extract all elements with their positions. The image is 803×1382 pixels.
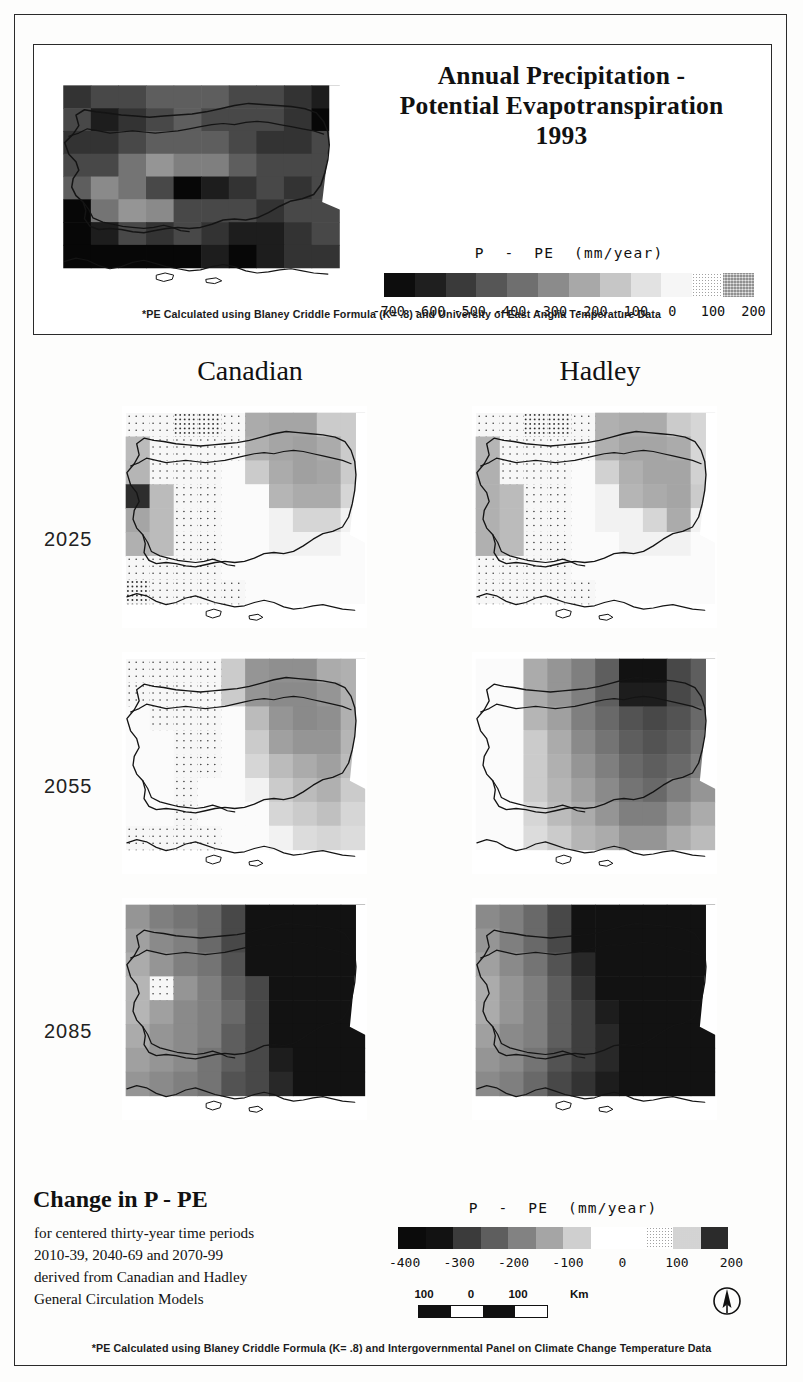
row-label-2085: 2085: [44, 1020, 130, 1043]
figure-page: Annual Precipitation - Potential Evapotr…: [0, 0, 803, 1382]
legend-swatch: [600, 273, 631, 297]
row-label-2055: 2055: [44, 775, 130, 798]
title-line-2: Potential Evapotranspiration: [364, 91, 759, 121]
change-line-2: 2010-39, 2040-69 and 2070-99: [34, 1244, 354, 1266]
legend-tick: 100: [701, 303, 725, 319]
scale-tick: 100: [414, 1288, 433, 1300]
top-legend-bar: [384, 273, 754, 297]
legend-tick: 200: [720, 1255, 743, 1270]
legend-swatch: [415, 273, 446, 297]
scale-bar-labels: 1000100: [418, 1288, 558, 1303]
change-line-3: derived from Canadian and Hadley: [34, 1266, 354, 1288]
legend-swatch: [692, 273, 723, 297]
map-observed-1993: [59, 79, 342, 291]
row-label-2025: 2025: [44, 528, 130, 551]
legend-swatch: [723, 273, 754, 297]
legend-swatch: [446, 273, 477, 297]
legend-swatch: [563, 1227, 591, 1249]
legend-swatch: [673, 1227, 701, 1249]
change-description: for centered thirty-year time periods 20…: [34, 1222, 354, 1310]
map-canvas: [59, 79, 342, 291]
legend-tick: -300: [443, 1255, 474, 1270]
legend-swatch: [398, 1227, 426, 1249]
legend-swatch: [569, 273, 600, 297]
map-canadian-2085: [122, 898, 367, 1120]
map-hadley-2025: [472, 406, 717, 628]
map-canadian-2055: [122, 652, 367, 874]
legend-swatch: [453, 1227, 481, 1249]
figure-title: Annual Precipitation - Potential Evapotr…: [364, 61, 759, 150]
compass-north-icon: [712, 1286, 742, 1316]
legend-tick: -200: [498, 1255, 529, 1270]
scale-tick: 0: [468, 1288, 474, 1300]
title-line-3: 1993: [364, 121, 759, 151]
map-hadley-2055: [472, 652, 717, 874]
bottom-footnote: *PE Calculated using Blaney Criddle Form…: [92, 1342, 712, 1354]
top-legend-caption: P - PE (mm/year): [384, 245, 754, 261]
title-line-1: Annual Precipitation -: [364, 61, 759, 91]
column-header-hadley: Hadley: [470, 355, 730, 387]
legend-swatch: [631, 273, 662, 297]
column-header-canadian: Canadian: [120, 355, 380, 387]
legend-tick: 200: [741, 303, 765, 319]
change-line-1: for centered thirty-year time periods: [34, 1222, 354, 1244]
scale-bar: 1000100 Km: [418, 1288, 558, 1318]
bottom-legend-ticks: -400-300-200-1000100200: [378, 1255, 758, 1273]
legend-swatch: [646, 1227, 674, 1249]
legend-tick: -400: [389, 1255, 420, 1270]
legend-swatch: [507, 273, 538, 297]
legend-swatch: [536, 1227, 564, 1249]
change-title: Change in P - PE: [33, 1186, 208, 1213]
legend-swatch: [426, 1227, 454, 1249]
map-canadian-2025: [122, 406, 367, 628]
legend-swatch: [384, 273, 415, 297]
legend-tick: 0: [668, 303, 676, 319]
legend-swatch: [508, 1227, 536, 1249]
bottom-legend-bar: [398, 1227, 728, 1249]
bottom-legend-caption: P - PE (mm/year): [398, 1200, 728, 1216]
legend-swatch: [661, 273, 692, 297]
legend-tick: 0: [619, 1255, 627, 1270]
legend-swatch: [591, 1227, 619, 1249]
legend-swatch: [618, 1227, 646, 1249]
change-line-4: General Circulation Models: [34, 1288, 354, 1310]
legend-swatch: [476, 273, 507, 297]
legend-tick: 100: [665, 1255, 688, 1270]
map-hadley-2085: [472, 898, 717, 1120]
legend-swatch: [701, 1227, 729, 1249]
legend-swatch: [481, 1227, 509, 1249]
scale-bar-graphic: [418, 1305, 548, 1318]
scale-tick: 100: [508, 1288, 527, 1300]
scale-bar-unit: Km: [570, 1288, 589, 1300]
top-footnote: *PE Calculated using Blaney Criddle Form…: [142, 308, 661, 320]
legend-tick: -100: [552, 1255, 583, 1270]
observed-panel: Annual Precipitation - Potential Evapotr…: [33, 44, 772, 335]
legend-swatch: [538, 273, 569, 297]
